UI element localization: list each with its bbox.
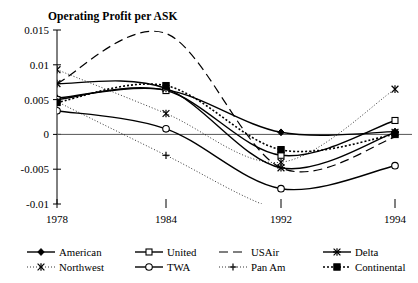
data-point-marker [162,152,169,159]
legend-item-pan-am[interactable]: Pan Am [218,261,322,273]
legend-label: Pan Am [251,261,286,273]
x-tick-label: 1984 [155,213,178,225]
data-point-marker [163,110,170,118]
x-tick-label: 1992 [270,213,292,225]
series-american [54,86,398,135]
data-point-marker [392,85,399,93]
legend-key-icon [218,246,248,258]
legend-key-icon [218,261,248,273]
legend-label: Continental [355,261,405,273]
legend-key-icon [322,246,352,258]
legend-label: Northwest [59,261,104,273]
data-point-marker [334,263,340,269]
legend-item-northwest[interactable]: Northwest [26,261,134,273]
data-point-marker [392,117,398,123]
legend-label: Delta [355,246,378,258]
legend-item-delta[interactable]: Delta [322,246,418,258]
series-line [57,111,395,190]
chart-figure: Operating Profit per ASK 0.0150.010.0050… [0,0,418,283]
legend-item-united[interactable]: United [134,246,218,258]
legend-item-american[interactable]: American [26,246,134,258]
data-point-marker [38,263,45,271]
series-usair [57,31,395,172]
data-point-marker [163,126,170,133]
legend-label: United [167,246,196,258]
series-delta [53,80,399,172]
y-tick-label: 0.005 [24,94,49,106]
data-point-marker [38,248,44,255]
legend-key-icon [26,246,56,258]
y-tick-label: 0.01 [30,59,49,71]
series-united [54,88,398,159]
y-tick-label: -0.005 [21,163,50,175]
data-point-marker [146,263,153,270]
legend-label: American [59,246,102,258]
data-point-marker [163,82,169,88]
legend-key-icon [134,246,164,258]
legend-item-usair[interactable]: USAir [218,246,322,258]
legend-key-icon [134,261,164,273]
data-point-marker [54,99,60,105]
series-continental [54,82,398,152]
series-line [57,31,395,172]
data-point-marker [146,249,152,255]
y-tick-label: -0.01 [26,198,49,210]
x-tick-label: 1978 [46,213,69,225]
chart-plot-area: 0.0150.010.0050-0.005-0.0119781984199219… [0,0,418,283]
data-point-marker [54,66,61,74]
legend-key-icon [26,261,56,273]
chart-legend: AmericanUnitedUSAirDeltaNorthwestTWAPan … [26,244,406,274]
legend-label: USAir [251,246,279,258]
data-point-marker [392,131,398,137]
series-line [57,84,395,152]
y-tick-label: 0.015 [24,24,49,36]
data-point-marker [278,185,285,192]
data-point-marker [53,80,61,88]
data-point-marker [333,248,341,256]
data-point-marker [392,162,399,169]
data-point-marker [278,147,284,153]
x-tick-label: 1994 [384,213,407,225]
data-point-marker [54,107,61,114]
series-line [57,81,395,169]
y-tick-label: 0 [44,128,50,140]
data-point-marker [229,263,236,270]
legend-label: TWA [167,261,190,273]
series-line [57,88,395,135]
legend-key-icon [322,261,352,273]
series-line [57,88,395,156]
legend-item-twa[interactable]: TWA [134,261,218,273]
legend-item-continental[interactable]: Continental [322,261,418,273]
